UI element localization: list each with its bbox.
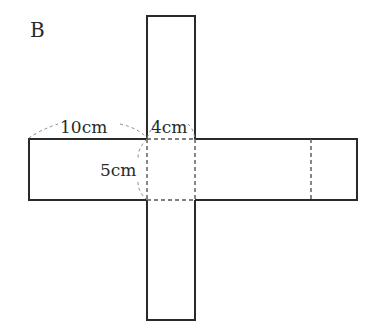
dimension-label-length: 10cm (60, 117, 107, 137)
horizontal-strip (29, 139, 357, 200)
bracket-10cm-right (120, 124, 147, 138)
bracket-5cm-bottom (138, 182, 147, 200)
bracket-10cm-left (29, 124, 58, 138)
cuboid-net-diagram: B 10cm 4cm 5c (0, 0, 367, 336)
dimension-label-width: 4cm (151, 117, 187, 137)
fold-lines (147, 139, 311, 200)
dimension-label-height: 5cm (100, 160, 136, 180)
net-drawing: B 10cm 4cm 5c (0, 0, 367, 336)
bracket-4cm-right (188, 124, 195, 138)
figure-label: B (30, 18, 45, 42)
bracket-5cm-top (138, 139, 147, 158)
vertical-strip (147, 16, 195, 320)
